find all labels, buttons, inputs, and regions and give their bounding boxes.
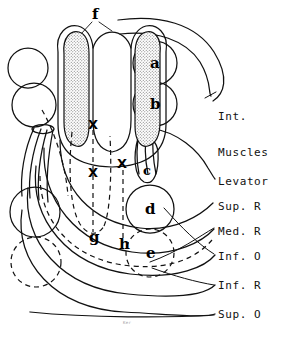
leader-cross-1 xyxy=(150,228,214,262)
structure-label-d: d xyxy=(145,202,156,217)
fan-curve-baseline xyxy=(30,312,214,317)
circle-left-mid xyxy=(12,83,56,127)
levator-curve xyxy=(150,128,215,179)
dashed-path-g-left xyxy=(70,132,104,233)
label-int-muscles: Int. Muscles xyxy=(218,87,269,183)
structure-label-b: b xyxy=(150,97,161,112)
label-med-r: Med. R xyxy=(218,226,261,238)
f-leader-right xyxy=(99,22,112,31)
label-sup-r: Sup. R xyxy=(218,201,261,213)
label-sup-o: Sup. O xyxy=(218,309,261,321)
label-int-muscles-line1: Int. xyxy=(218,111,269,123)
label-int-muscles-line2: Muscles xyxy=(218,147,269,159)
x-mark-top: X xyxy=(88,118,98,131)
bottom-artifact-mark: Ker xyxy=(123,320,131,325)
diagram-canvas: Int. Muscles Levator Sup. R Med. R Inf. … xyxy=(0,0,291,340)
structure-label-c: c xyxy=(143,163,151,178)
structure-label-g: g xyxy=(89,230,100,245)
leader-cross-2 xyxy=(164,208,214,254)
structure-label-e: e xyxy=(146,246,156,261)
leader-cross-3 xyxy=(152,268,214,285)
fan-curve-sup-o xyxy=(21,210,215,316)
x-mark-mid: X xyxy=(88,166,98,179)
structure-label-h: h xyxy=(119,237,130,252)
stippled-lobe-right xyxy=(135,32,160,147)
structure-label-a: a xyxy=(150,56,160,71)
label-levator: Levator xyxy=(218,176,269,188)
stippled-lobe-left xyxy=(64,32,89,147)
circle-left-upper xyxy=(8,48,48,88)
circle-left-lower xyxy=(10,187,60,237)
structure-label-f: f xyxy=(92,7,98,22)
label-inf-o: Inf. O xyxy=(218,251,261,263)
label-inf-r: Inf. R xyxy=(218,280,261,292)
central-capsule-inner-notch xyxy=(93,32,131,48)
x-mark-right: X xyxy=(117,157,127,170)
